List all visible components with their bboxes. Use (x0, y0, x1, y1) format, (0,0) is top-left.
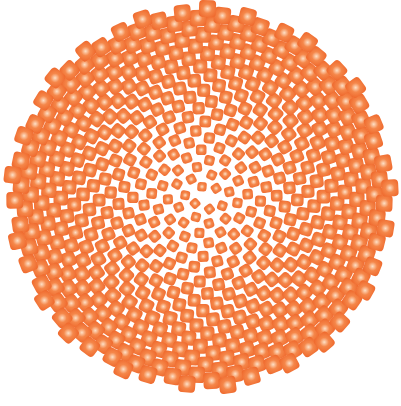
seed (190, 125, 202, 137)
seed (138, 199, 150, 211)
seed (118, 180, 131, 193)
seed (181, 110, 195, 124)
seed (127, 192, 138, 203)
seed (197, 182, 207, 192)
seed (242, 188, 253, 199)
seed (163, 194, 173, 204)
seed (11, 215, 30, 234)
seed (191, 162, 202, 173)
seed (199, 115, 211, 127)
seed (283, 181, 297, 195)
seed (192, 102, 205, 115)
seed (180, 281, 194, 295)
seed (232, 197, 243, 208)
seed (178, 375, 196, 393)
seed (255, 195, 267, 207)
seed (188, 261, 200, 273)
seed (291, 194, 304, 207)
seed (196, 145, 207, 156)
seed (203, 266, 216, 279)
seed (376, 219, 395, 238)
seed (203, 372, 221, 390)
seed (173, 4, 191, 22)
seed (278, 200, 291, 213)
seed (373, 154, 393, 174)
seed (146, 188, 158, 200)
seed (194, 275, 206, 287)
seed (199, 0, 217, 17)
seed (180, 190, 191, 201)
seed (203, 237, 215, 249)
seed (3, 166, 22, 185)
seed (218, 375, 237, 394)
phyllotaxis-pattern (0, 0, 401, 406)
seed (6, 192, 23, 209)
seed (203, 132, 215, 144)
seed (194, 228, 205, 239)
seed (104, 186, 117, 199)
seed (112, 198, 125, 211)
seed (271, 190, 283, 202)
seed (381, 179, 399, 197)
seed (197, 251, 208, 262)
seed (376, 195, 393, 212)
seed (260, 181, 273, 194)
